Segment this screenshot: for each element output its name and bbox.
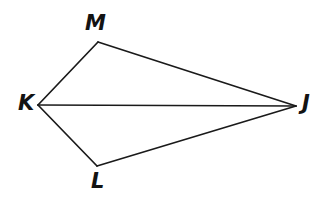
segment-km xyxy=(38,42,98,105)
vertex-label-j: J xyxy=(302,93,310,114)
segment-kj xyxy=(38,105,296,106)
segment-lj xyxy=(97,106,296,166)
vertex-label-l: L xyxy=(91,171,104,192)
vertex-label-m: M xyxy=(85,13,106,34)
geometry-figure: M K J L xyxy=(0,0,329,201)
segment-group xyxy=(38,42,296,166)
vertex-label-k: K xyxy=(18,93,34,114)
segment-kl xyxy=(38,105,97,166)
segment-mj xyxy=(98,42,296,106)
figure-canvas xyxy=(0,0,329,201)
